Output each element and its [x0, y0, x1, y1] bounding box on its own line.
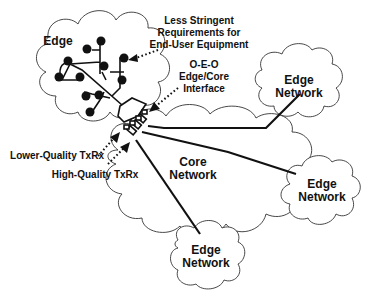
lower-quality-txrx [136, 116, 141, 120]
lower-quality-txrx [124, 125, 129, 129]
core-network-label-line1: Core [179, 155, 207, 169]
edge-network-upper-right-label-line1: Edge [284, 73, 314, 87]
end-user-node [95, 91, 104, 100]
requirements-annotation-line1: Less Stringent [164, 15, 234, 26]
lower-quality-txrx [142, 110, 147, 114]
interface-annotation-line2: Edge/Core [179, 71, 229, 82]
network-diagram: Edge Less Stringent Requirements for End… [0, 0, 368, 300]
interface-annotation-line1: O-E-O [190, 59, 219, 70]
edge-network-bottom-label-line2: Network [182, 256, 230, 270]
edge-network-bottom-label-line1: Edge [191, 243, 221, 257]
end-user-node [118, 76, 127, 85]
lower-quality-txrx-label: Lower-Quality TxRx [10, 150, 104, 161]
end-user-node [55, 73, 64, 82]
end-user-node [86, 108, 95, 117]
interface-annotation-line3: Interface [183, 83, 225, 94]
requirements-annotation-line3: End-User Equipment [150, 39, 250, 50]
end-user-node [82, 92, 91, 101]
core-network-label-line2: Network [169, 168, 217, 182]
high-quality-txrx-label: High-Quality TxRx [52, 169, 139, 180]
requirements-annotation-line2: Requirements for [158, 27, 241, 38]
edge-network-upper-right-label-line2: Network [275, 86, 323, 100]
end-user-node [64, 57, 73, 66]
end-user-node [120, 54, 129, 63]
end-user-node [76, 73, 85, 82]
lower-quality-txrx [130, 121, 135, 125]
end-user-node [100, 62, 109, 71]
end-user-node [97, 37, 106, 46]
edge-label: Edge [43, 34, 73, 48]
edge-network-right-label-line2: Network [298, 190, 346, 204]
edge-network-right-label-line1: Edge [307, 177, 337, 191]
end-user-node [83, 45, 92, 54]
